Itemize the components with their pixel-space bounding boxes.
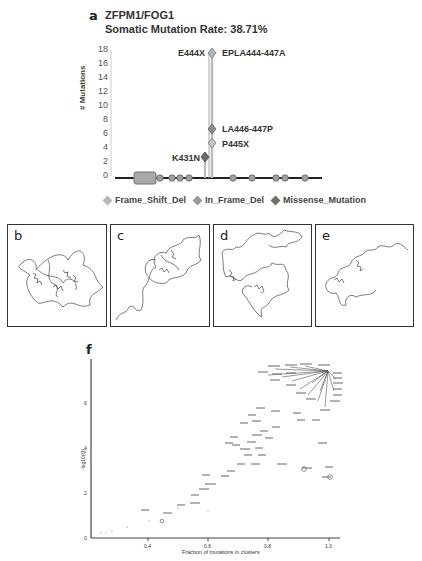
legend-item-frame-shift: Frame_Shift_Del [104, 195, 186, 205]
diamond-icon [103, 195, 113, 205]
y-tick: 0 [84, 535, 87, 541]
panel-b-trajectory: b [7, 224, 107, 327]
mutation-label-k431n: K431N [172, 153, 200, 163]
x-tick: 0.4 [144, 543, 151, 549]
panel-c-trajectory: c [110, 224, 210, 327]
diamond-icon [271, 195, 281, 205]
panel-f-y-label: -log10(Q) [80, 449, 86, 470]
mutation-label-p445x: P445X [222, 139, 249, 149]
legend-item-in-frame: In_Frame_Del [194, 195, 264, 205]
x-tick: 0.8 [264, 543, 271, 549]
k431n-marker [201, 152, 209, 162]
panel-a-legend: Frame_Shift_Del In_Frame_Del Missense_Mu… [104, 195, 366, 205]
panel-d-trajectory: d [213, 224, 312, 327]
y-tick: 6 [84, 400, 87, 406]
mutation-label-la446: LA446-447P [222, 124, 273, 134]
legend-item-missense: Missense_Mutation [272, 195, 366, 205]
panel-f-scatter-plot [0, 355, 422, 561]
panel-a-lollipop-plot [0, 0, 422, 215]
panel-f-x-label: Fraction of mutations in clusters [182, 549, 260, 555]
mutation-label-e444x: E444X [178, 48, 205, 58]
x-tick: 1.0 [325, 543, 332, 549]
y-tick: 2 [84, 490, 87, 496]
mutation-label-epla: EPLA444-447A [222, 48, 286, 58]
panel-e-trajectory: e [315, 224, 414, 327]
diamond-icon [193, 195, 203, 205]
